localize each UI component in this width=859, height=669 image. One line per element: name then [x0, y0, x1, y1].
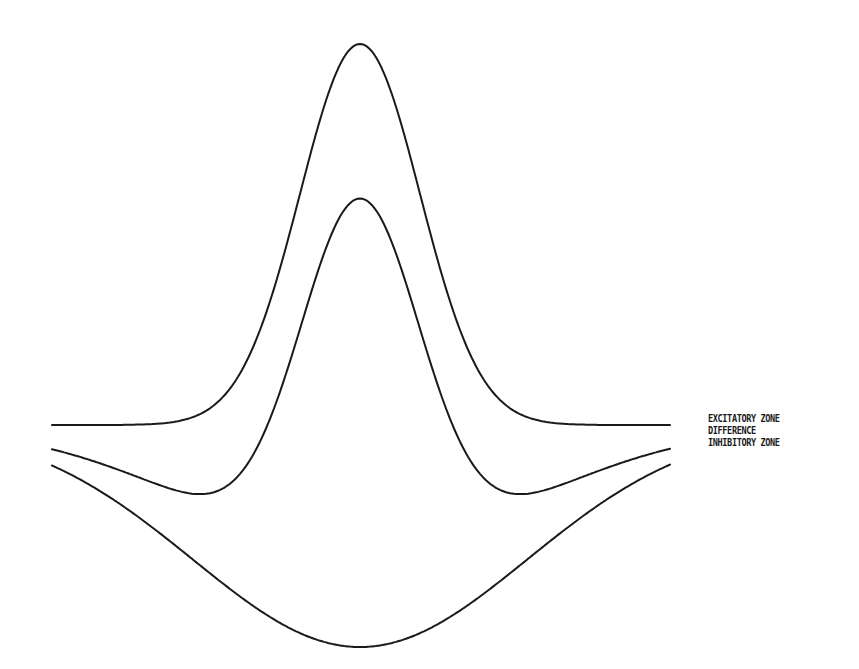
inhibitory-zone-curve [52, 465, 670, 647]
legend: EXCITATORY ZONE DIFFERENCE INHIBITORY ZO… [708, 413, 780, 449]
dog-chart [0, 0, 859, 669]
legend-inhibitory-zone: INHIBITORY ZONE [708, 437, 780, 449]
excitatory-zone-curve [52, 44, 670, 425]
difference-curve [52, 199, 670, 495]
